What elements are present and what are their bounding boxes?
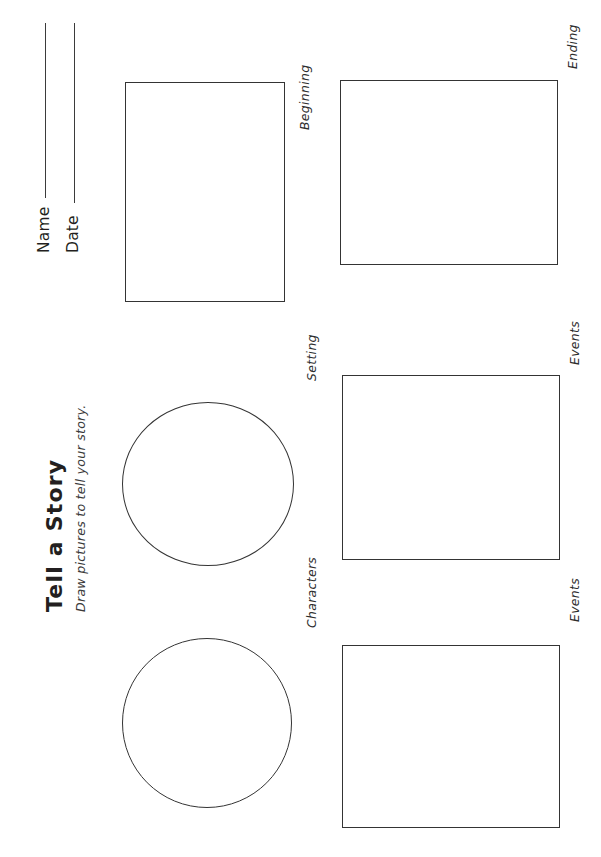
characters-drawing-area[interactable] [122,638,292,808]
worksheet-sheet: Tell a Story Draw pictures to tell your … [0,0,601,857]
characters-label: Characters [304,557,319,628]
ending-drawing-area[interactable] [340,80,558,265]
date-row: Date [64,23,82,253]
cell-ending: Ending [340,80,558,265]
setting-label: Setting [304,334,319,381]
date-input-rule[interactable] [74,23,75,203]
events-2-label: Events [567,321,582,365]
date-label: Date [64,215,82,253]
page-title: Tell a Story [42,282,67,612]
setting-drawing-area[interactable] [122,402,294,566]
beginning-drawing-area[interactable] [125,82,285,302]
cell-beginning: Beginning [125,82,285,302]
events-2-drawing-area[interactable] [342,375,560,560]
title-block: Tell a Story Draw pictures to tell your … [42,282,88,612]
name-row: Name [35,23,53,253]
events-1-drawing-area[interactable] [342,645,560,828]
beginning-label: Beginning [297,65,312,130]
cell-characters: Characters [122,638,292,808]
events-1-label: Events [567,578,582,622]
cell-events-2: Events [342,375,560,560]
page-subtitle: Draw pictures to tell your story. [73,282,88,612]
ending-label: Ending [565,24,580,69]
worksheet-page: Tell a Story Draw pictures to tell your … [0,0,601,857]
name-label: Name [35,206,53,253]
name-input-rule[interactable] [45,23,46,198]
cell-setting: Setting [122,402,294,566]
cell-events-1: Events [342,645,560,828]
name-date-block: Name Date [35,23,93,253]
